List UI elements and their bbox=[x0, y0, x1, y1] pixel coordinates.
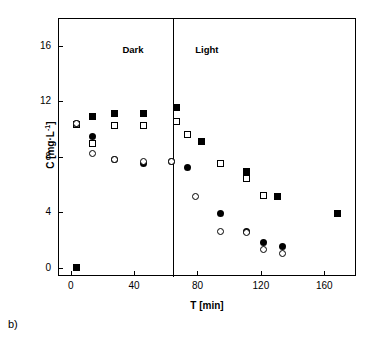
data-point-filled-circle bbox=[89, 133, 96, 140]
panel-label: b) bbox=[8, 318, 18, 330]
data-point-filled-square bbox=[198, 138, 205, 145]
data-point-open-square bbox=[173, 118, 180, 125]
data-point-open-square bbox=[243, 175, 250, 182]
y-tick-mark bbox=[58, 46, 63, 47]
plot-area: Dark Light bbox=[58, 18, 356, 276]
data-point-open-square bbox=[184, 131, 191, 138]
y-axis-title-pre: C [mg bbox=[45, 141, 56, 169]
x-tick-label: 80 bbox=[183, 280, 211, 291]
x-tick-mark bbox=[261, 271, 262, 276]
phase-divider-line bbox=[173, 19, 174, 277]
y-axis-title-post: ] bbox=[45, 121, 56, 124]
data-point-filled-square bbox=[89, 113, 96, 120]
data-point-open-circle bbox=[111, 156, 118, 163]
data-point-open-circle bbox=[243, 229, 250, 236]
data-point-filled-square bbox=[111, 110, 118, 117]
data-point-open-circle bbox=[260, 246, 267, 253]
x-tick-mark bbox=[197, 271, 198, 276]
data-point-open-square bbox=[111, 122, 118, 129]
data-point-filled-circle bbox=[260, 239, 267, 246]
y-tick-label: 16 bbox=[27, 40, 51, 51]
x-tick-mark bbox=[324, 271, 325, 276]
data-point-open-circle bbox=[192, 193, 199, 200]
x-axis-title: T [min] bbox=[157, 300, 257, 311]
data-point-open-circle bbox=[217, 228, 224, 235]
data-point-open-square bbox=[89, 140, 96, 147]
y-tick-mark bbox=[58, 212, 63, 213]
y-tick-label: 0 bbox=[27, 262, 51, 273]
data-point-filled-circle bbox=[217, 210, 224, 217]
x-tick-label: 120 bbox=[247, 280, 275, 291]
data-point-open-circle bbox=[73, 120, 80, 127]
data-point-filled-square bbox=[243, 168, 250, 175]
y-tick-mark bbox=[58, 157, 63, 158]
annotation-dark: Dark bbox=[122, 44, 143, 55]
data-point-filled-square bbox=[334, 210, 341, 217]
y-axis-title: C [mg·L-1] bbox=[44, 95, 56, 195]
x-tick-label: 40 bbox=[120, 280, 148, 291]
data-point-filled-circle bbox=[184, 164, 191, 171]
y-tick-label: 4 bbox=[27, 206, 51, 217]
data-point-open-square bbox=[140, 122, 147, 129]
data-point-filled-square bbox=[173, 104, 180, 111]
x-tick-label: 160 bbox=[310, 280, 338, 291]
data-point-filled-square bbox=[140, 110, 147, 117]
data-point-filled-square bbox=[274, 193, 281, 200]
data-point-open-circle bbox=[140, 158, 147, 165]
data-point-open-square bbox=[260, 192, 267, 199]
x-tick-label: 0 bbox=[57, 280, 85, 291]
x-tick-mark bbox=[134, 271, 135, 276]
x-tick-mark bbox=[71, 271, 72, 276]
figure-panel-b: Dark Light 0481216 04080120160 C [mg·L-1… bbox=[0, 0, 380, 341]
y-tick-mark bbox=[58, 101, 63, 102]
data-point-open-circle bbox=[89, 150, 96, 157]
data-point-open-square bbox=[217, 160, 224, 167]
y-axis-title-dot: · bbox=[45, 137, 56, 140]
data-point-filled-circle bbox=[279, 243, 286, 250]
y-axis-title-mid: L bbox=[45, 131, 56, 137]
y-axis-title-exponent: -1 bbox=[44, 125, 51, 131]
data-point-open-circle bbox=[279, 250, 286, 257]
data-point-filled-square bbox=[73, 264, 80, 271]
annotation-light: Light bbox=[195, 44, 218, 55]
y-tick-mark bbox=[58, 268, 63, 269]
